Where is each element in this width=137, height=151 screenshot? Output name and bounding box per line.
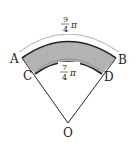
label-D: D [104,70,114,84]
inner-arc-denominator: 4 [62,73,67,82]
outer-arc-denominator: 4 [63,25,68,34]
label-C: C [23,69,32,83]
inner-arc-numerator: 7 [62,63,67,72]
outer-arc-pi: π [70,20,78,30]
inner-arc-pi: π [69,68,77,78]
label-O: O [63,126,73,140]
label-A: A [9,52,19,66]
label-B: B [118,53,127,67]
outer-arc-numerator: 9 [63,15,68,24]
sector-diagram: 9 4 π 7 4 π A B C D O [0,0,137,151]
